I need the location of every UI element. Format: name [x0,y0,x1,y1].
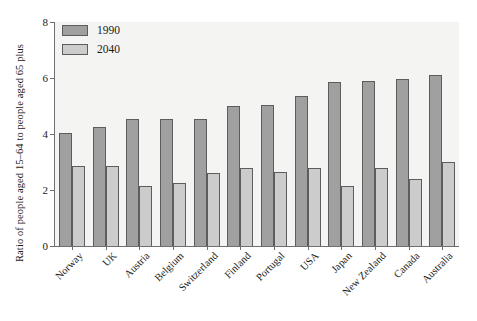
bar-switzerland-1990 [194,119,207,246]
y-tick-label: 0 [43,241,49,252]
bar-group-portugal [257,22,291,246]
bar-japan-1990 [328,82,341,246]
bar-new-zealand-2040 [375,168,388,246]
bar-group-japan [324,22,358,246]
x-axis-label-usa: USA [298,250,321,273]
legend-label-2040: 2040 [97,43,120,55]
bar-new-zealand-1990 [362,81,375,246]
bar-uk-1990 [93,127,106,246]
y-tick-label: 8 [43,17,49,28]
legend-label-1990: 1990 [97,24,120,36]
bar-australia-1990 [429,75,442,246]
bar-uk-2040 [106,166,119,246]
x-axis-label-belgium: Belgium [152,250,185,283]
bar-canada-2040 [409,179,422,246]
bar-portugal-1990 [261,105,274,246]
series-2040-swatch [62,44,88,55]
bar-chart-figure: Ratio of people aged 15–64 to people age… [0,0,477,321]
y-tick-mark [50,246,55,247]
bar-portugal-2040 [274,172,287,246]
bar-group-australia [425,22,459,246]
bar-group-new-zealand [358,22,392,246]
y-axis-title: Ratio of people aged 15–64 to people age… [14,12,30,262]
x-axis-labels: NorwayUKAustriaBelgiumSwitzerlandFinland… [54,250,458,320]
bar-switzerland-2040 [207,173,220,246]
bar-belgium-2040 [173,183,186,246]
chart-legend: 1990 2040 [62,22,172,60]
series-1990-swatch [62,25,88,36]
x-axis-label-austria: Austria [122,250,152,280]
bar-austria-2040 [139,186,152,246]
bar-group-usa [291,22,325,246]
legend-item-2040: 2040 [62,41,172,57]
bar-norway-1990 [59,133,72,246]
x-axis-label-portugal: Portugal [254,250,287,283]
bar-austria-1990 [126,119,139,246]
y-tick-label: 2 [43,185,49,196]
x-axis-label-norway: Norway [53,250,85,282]
bar-japan-2040 [341,186,354,246]
bar-group-canada [392,22,426,246]
bar-group-finland [223,22,257,246]
bar-finland-2040 [240,168,253,246]
x-axis-label-finland: Finland [222,250,252,280]
bar-norway-2040 [72,166,85,246]
bar-australia-2040 [442,162,455,246]
bar-belgium-1990 [160,119,173,246]
x-axis-label-australia: Australia [420,250,455,285]
bar-finland-1990 [227,106,240,246]
y-tick-label: 4 [43,129,49,140]
x-axis-label-canada: Canada [391,250,421,280]
bar-canada-1990 [396,79,409,246]
x-axis-label-japan: Japan [329,250,354,275]
x-axis-label-uk: UK [100,250,119,269]
y-tick-label: 6 [43,73,49,84]
legend-item-1990: 1990 [62,22,172,38]
bar-usa-1990 [295,96,308,246]
bar-usa-2040 [308,168,321,246]
bar-group-switzerland [190,22,224,246]
